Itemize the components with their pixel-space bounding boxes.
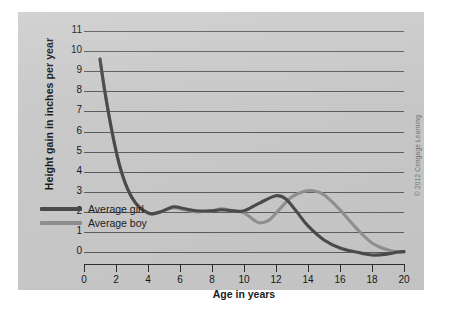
y-tick-label: 0 xyxy=(58,245,82,256)
x-axis: 02468101214161820 xyxy=(84,264,404,272)
x-tick xyxy=(276,264,277,272)
legend-item-boy: Average boy xyxy=(40,216,147,230)
y-tick-label: 3 xyxy=(58,185,82,196)
figure: Height gain in inches per year 012345678… xyxy=(0,0,464,317)
chart-panel: Height gain in inches per year 012345678… xyxy=(18,12,424,290)
x-tick xyxy=(404,264,405,272)
x-tick-label: 0 xyxy=(71,274,97,285)
x-tick xyxy=(116,264,117,272)
x-tick-label: 8 xyxy=(199,274,225,285)
y-tick-label: 10 xyxy=(58,44,82,55)
x-tick-label: 20 xyxy=(391,274,417,285)
x-tick-label: 16 xyxy=(327,274,353,285)
x-tick xyxy=(308,264,309,272)
y-tick-label: 6 xyxy=(58,125,82,136)
x-tick-label: 2 xyxy=(103,274,129,285)
x-tick-label: 12 xyxy=(263,274,289,285)
y-tick-label: 11 xyxy=(58,24,82,35)
y-axis-title: Height gain in inches per year xyxy=(43,19,55,209)
x-tick-label: 6 xyxy=(167,274,193,285)
x-tick xyxy=(84,264,85,272)
x-tick xyxy=(148,264,149,272)
x-tick-label: 10 xyxy=(231,274,257,285)
x-tick xyxy=(180,264,181,272)
legend-item-girl: Average girl xyxy=(40,202,147,216)
x-tick xyxy=(372,264,373,272)
y-tick-label: 7 xyxy=(58,104,82,115)
legend: Average girl Average boy xyxy=(40,202,147,230)
y-tick-label: 9 xyxy=(58,64,82,75)
legend-swatch-boy xyxy=(40,221,82,225)
x-tick-label: 4 xyxy=(135,274,161,285)
legend-swatch-girl xyxy=(40,207,82,211)
copyright-notice: © 2012 Cengage Learning xyxy=(414,76,421,196)
x-axis-title: Age in years xyxy=(84,288,404,300)
y-tick-label: 8 xyxy=(58,84,82,95)
y-tick-label: 4 xyxy=(58,165,82,176)
x-tick-label: 14 xyxy=(295,274,321,285)
x-tick-label: 18 xyxy=(359,274,385,285)
x-tick xyxy=(212,264,213,272)
legend-label-boy: Average boy xyxy=(88,217,147,229)
x-tick xyxy=(244,264,245,272)
legend-label-girl: Average girl xyxy=(88,203,144,215)
x-tick xyxy=(340,264,341,272)
y-tick-label: 5 xyxy=(58,145,82,156)
